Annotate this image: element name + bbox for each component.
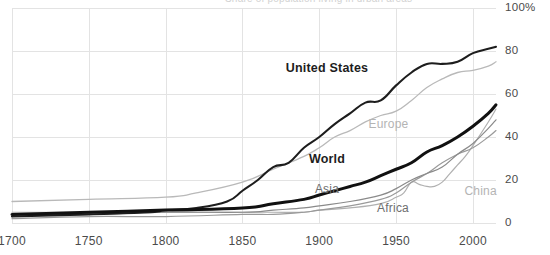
- series-line-china: [12, 109, 496, 212]
- x-tick-label: 1900: [305, 235, 333, 247]
- series-label-united-states: United States: [286, 62, 368, 75]
- x-tick-label: 1950: [382, 235, 410, 247]
- series-line-europe: [12, 62, 496, 202]
- y-tick-label: 80: [505, 45, 518, 57]
- series-label-africa: Africa: [377, 202, 409, 214]
- x-tick-label: 1800: [152, 235, 180, 247]
- series-label-asia: Asia: [315, 183, 339, 195]
- y-tick-label: 40: [505, 131, 518, 143]
- x-tick-label: 1700: [0, 235, 26, 247]
- series-label-world: World: [309, 152, 345, 165]
- y-tick-label: 100%: [505, 2, 536, 14]
- y-tick-label: 20: [505, 174, 518, 186]
- series-label-china: China: [464, 185, 496, 197]
- series-line-united-states: [12, 47, 496, 217]
- series-label-europe: Europe: [368, 118, 408, 130]
- x-tick-label: 1750: [75, 235, 103, 247]
- series-line-world: [12, 105, 496, 215]
- y-tick-label: 0: [505, 217, 512, 229]
- chart-container: Share of population living in urban area…: [0, 0, 550, 255]
- series-line-asia: [12, 120, 496, 215]
- x-tick-label: 1850: [229, 235, 257, 247]
- x-tick-label: 2000: [459, 235, 487, 247]
- y-tick-label: 60: [505, 88, 518, 100]
- series-curves: [0, 0, 550, 255]
